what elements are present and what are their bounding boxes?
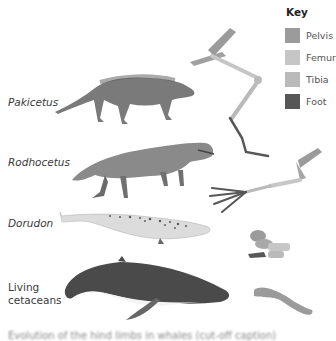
legend-title: Key [286, 6, 336, 18]
dorudon-hindlimb [248, 230, 290, 258]
species-label-pakicetus: Pakicetus [8, 96, 58, 109]
pakicetus-illustration [55, 76, 194, 124]
legend-item-tibia: Tibia [285, 68, 336, 90]
foot-swatch [285, 94, 300, 109]
living-cetacean-illustration [65, 256, 229, 320]
legend-label: Femur [306, 52, 336, 63]
species-label-line2: cetaceans [8, 294, 62, 307]
caption-cutoff: Evolution of the hind limbs in whales (c… [8, 330, 276, 341]
living-cetacean-pelvis [254, 288, 313, 315]
legend-label: Foot [306, 96, 326, 107]
legend-item-femur: Femur [285, 46, 336, 68]
legend-label: Pelvis [306, 30, 333, 41]
legend: Key Pelvis Femur Tibia Foot [285, 6, 336, 112]
species-label-dorudon: Dorudon [8, 217, 53, 230]
rodhocetus-illustration [72, 143, 214, 198]
rodhocetus-hindlimb [210, 148, 322, 212]
pelvis-swatch [285, 28, 300, 43]
dorudon-illustration [60, 212, 210, 244]
legend-item-foot: Foot [285, 90, 336, 112]
species-label-rodhocetus: Rodhocetus [8, 156, 70, 169]
species-label-line1: Living [8, 281, 62, 294]
legend-item-pelvis: Pelvis [285, 24, 336, 46]
species-label-living-cetaceans: Living cetaceans [8, 281, 62, 307]
tibia-swatch [285, 72, 300, 87]
legend-label: Tibia [306, 74, 329, 85]
femur-swatch [285, 50, 300, 65]
pakicetus-hindlimb [190, 28, 268, 156]
